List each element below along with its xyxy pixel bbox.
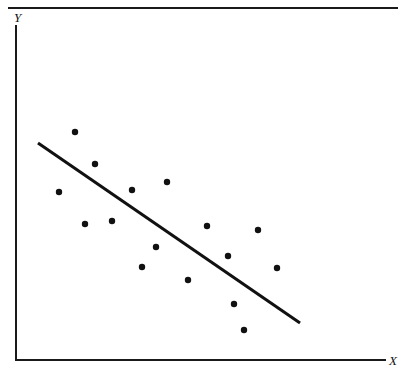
figure-background [0, 0, 405, 374]
data-point [255, 227, 261, 233]
data-point [92, 161, 98, 167]
data-point [164, 179, 170, 185]
data-point [225, 253, 231, 259]
data-point [231, 301, 237, 307]
data-point [274, 265, 280, 271]
data-point [72, 129, 78, 135]
data-point [129, 187, 135, 193]
data-point [185, 277, 191, 283]
data-point [82, 221, 88, 227]
scatter-plot-figure: Y X [0, 0, 405, 374]
data-point [241, 327, 247, 333]
x-axis-label: X [388, 353, 398, 368]
data-point [204, 223, 210, 229]
data-point [153, 244, 159, 250]
plot-canvas: Y X [0, 0, 405, 374]
data-point [109, 218, 115, 224]
data-point [56, 189, 62, 195]
data-point [139, 264, 145, 270]
